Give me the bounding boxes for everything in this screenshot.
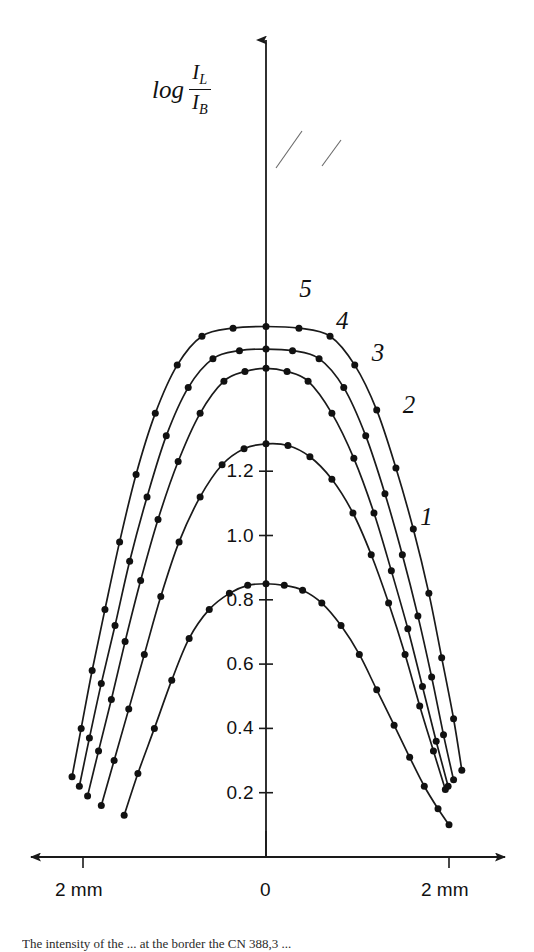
curve-label-4: 4: [336, 307, 349, 335]
data-point: [350, 455, 357, 462]
data-point: [289, 347, 296, 354]
data-point: [327, 333, 334, 340]
denominator-subscript: B: [199, 102, 208, 118]
data-point: [425, 590, 432, 597]
data-point: [428, 673, 435, 680]
y-axis-label-log: log: [152, 76, 184, 104]
data-point: [295, 325, 302, 332]
curve-1: [121, 580, 453, 828]
curve-label-2: 2: [403, 391, 416, 419]
data-point: [198, 333, 205, 340]
data-point: [174, 362, 181, 369]
data-point: [86, 735, 93, 742]
data-point: [95, 747, 102, 754]
data-point: [351, 362, 358, 369]
data-point: [349, 510, 356, 517]
data-point: [125, 706, 132, 713]
figure-caption: The intensity of the ... at the border t…: [22, 936, 514, 952]
y-tick-label-0.6: 0.6: [200, 653, 254, 675]
data-point: [328, 476, 335, 483]
data-point: [306, 453, 313, 460]
data-point: [458, 767, 465, 774]
data-point: [197, 493, 204, 500]
fraction-numerator: IL: [189, 62, 210, 87]
data-point: [416, 702, 423, 709]
y-axis-label-fraction: IL IB: [189, 62, 211, 117]
data-point: [244, 582, 251, 589]
data-point: [112, 622, 119, 629]
data-point: [116, 538, 123, 545]
data-point: [402, 651, 409, 658]
data-point: [236, 347, 243, 354]
data-point: [186, 635, 193, 642]
data-point: [284, 368, 291, 375]
data-point: [446, 821, 453, 828]
data-point: [318, 600, 325, 607]
x-tick-label-1: 0: [260, 879, 271, 901]
data-point: [388, 567, 395, 574]
leader-lines: [276, 131, 341, 168]
data-point: [220, 378, 227, 385]
data-point: [392, 464, 399, 471]
data-point: [373, 407, 380, 414]
data-point: [356, 651, 363, 658]
data-point: [144, 493, 151, 500]
data-point: [414, 612, 421, 619]
data-point: [111, 757, 118, 764]
y-axis-label: log IL IB: [152, 62, 211, 117]
data-point: [370, 510, 377, 517]
y-tick-label-0.4: 0.4: [200, 717, 254, 739]
curve-line-1: [124, 584, 449, 825]
data-point: [373, 686, 380, 693]
data-point: [168, 677, 175, 684]
data-point: [410, 526, 417, 533]
data-point: [151, 725, 158, 732]
data-point: [328, 410, 335, 417]
data-point: [404, 625, 411, 632]
data-point: [175, 458, 182, 465]
data-point: [435, 805, 442, 812]
data-point: [133, 471, 140, 478]
numerator-subscript: L: [199, 71, 207, 87]
data-point: [155, 516, 162, 523]
data-point: [241, 368, 248, 375]
data-point: [299, 587, 306, 594]
data-point: [263, 580, 270, 587]
data-point: [421, 783, 428, 790]
data-point: [385, 600, 392, 607]
data-point: [450, 715, 457, 722]
data-point: [391, 722, 398, 729]
data-point: [284, 442, 291, 449]
data-point: [263, 365, 270, 372]
data-point: [185, 384, 192, 391]
y-tick-label-1.0: 1.0: [200, 525, 254, 547]
x-tick-label-0: 2 mm: [55, 879, 103, 901]
data-point: [430, 747, 437, 754]
data-point: [445, 783, 452, 790]
data-point: [316, 355, 323, 362]
data-point: [101, 606, 108, 613]
data-point: [440, 731, 447, 738]
curve-label-5: 5: [299, 275, 312, 303]
data-point: [305, 378, 312, 385]
data-point: [362, 432, 369, 439]
data-point: [438, 654, 445, 661]
data-point: [419, 683, 426, 690]
data-point: [157, 593, 164, 600]
data-point: [121, 812, 128, 819]
data-point: [406, 754, 413, 761]
data-point: [433, 738, 440, 745]
curve-2: [98, 440, 449, 809]
data-point: [152, 410, 159, 417]
data-point: [163, 432, 170, 439]
data-point: [338, 622, 345, 629]
x-tick-marks: [83, 831, 449, 868]
data-point: [108, 696, 115, 703]
data-point: [76, 783, 83, 790]
data-point: [98, 802, 105, 809]
data-point: [69, 773, 76, 780]
data-point: [340, 384, 347, 391]
data-point: [368, 551, 375, 558]
data-point: [241, 445, 248, 452]
data-point: [263, 440, 270, 447]
